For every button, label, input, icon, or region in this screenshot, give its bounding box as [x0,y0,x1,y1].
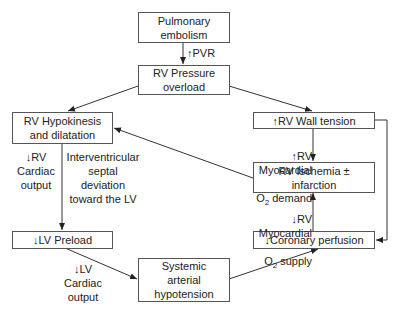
label-o2-supply-line1: ↓RV Myocardial [259,213,312,239]
label-pvr: ↑PVR [187,46,215,60]
node-rv-wall-tension: ↑RV Wall tension [253,112,375,129]
label-o2-supply: ↓RV Myocardial O2 supply [240,198,312,273]
label-lv-cardiac-output: ↓LV Cardiac output [60,262,106,304]
node-rv-pressure-overload: RV Pressure overload [138,65,230,95]
label-o2-supply-o: O [264,255,273,267]
node-pulmonary-embolism: Pulmonary embolism [138,12,230,43]
node-lv-preload: ↓LV Preload [12,231,113,249]
node-rv-hypokinesis: RV Hypokinesis and dilatation [12,112,113,144]
node-systemic-hypotension: Systemic arterial hypotension [138,258,230,302]
label-rv-cardiac-output: ↓RV Cardiac output [14,150,58,192]
label-o2-demand-line1: ↑RV Myocardial [259,150,312,176]
label-o2-supply-tail: supply [277,255,312,267]
label-septal-deviation: Interventricular septal deviation toward… [66,150,140,206]
